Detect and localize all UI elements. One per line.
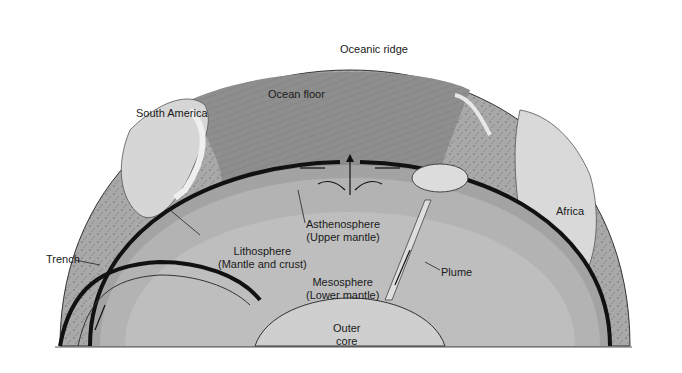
label-south-america: South America (136, 107, 208, 120)
label-oceanic-ridge: Oceanic ridge (340, 43, 408, 56)
mantle-plume-head (412, 164, 468, 192)
asthenosphere-subtitle: (Upper mantle) (306, 231, 380, 244)
outer-core-line2: core (333, 335, 361, 348)
label-asthenosphere: Asthenosphere (Upper mantle) (306, 218, 380, 244)
label-africa: Africa (556, 205, 584, 218)
mesosphere-name: Mesosphere (306, 276, 379, 289)
label-trench: Trench (46, 253, 80, 266)
asthenosphere-name: Asthenosphere (306, 218, 380, 231)
label-mesosphere: Mesosphere (Lower mantle) (306, 276, 379, 302)
label-outer-core: Outer core (333, 322, 361, 348)
label-ocean-floor: Ocean floor (268, 88, 325, 101)
lithosphere-subtitle: (Mantle and crust) (218, 258, 307, 271)
label-lithosphere: Lithosphere (Mantle and crust) (218, 245, 307, 271)
mesosphere-subtitle: (Lower mantle) (306, 289, 379, 302)
lithosphere-name: Lithosphere (218, 245, 307, 258)
outer-core-line1: Outer (333, 322, 361, 335)
label-plume: Plume (441, 266, 472, 279)
